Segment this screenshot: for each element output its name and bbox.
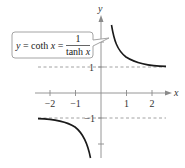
curve-negative-branch [38,119,91,158]
equation-lhs: y = coth x = [15,40,64,51]
curve-positive-branch [112,25,167,66]
equation-callout: y = coth x = 1 tanh x [12,32,109,58]
y-tick-label: 1 [89,62,94,73]
x-axis-arrow-icon [165,91,172,96]
x-tick-label: 2 [150,98,155,109]
y-axis-arrow-icon [99,15,104,22]
coth-graph: −2 −1 1 2 1 −1 x y y = coth x = 1 tanh x [0,0,185,168]
x-tick-label: −2 [45,98,56,109]
y-axis-label: y [97,3,103,14]
equation-numerator: 1 [76,33,81,44]
equation-denominator: tanh x [66,46,91,57]
x-tick-label: 1 [124,98,129,109]
x-tick-label: −1 [70,98,81,109]
y-tick-label: −1 [84,113,95,124]
x-axis-label: x [173,87,179,98]
